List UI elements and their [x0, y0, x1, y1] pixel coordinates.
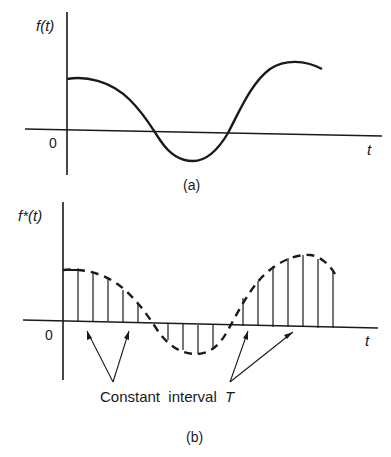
y-axis-label-a: f(t)	[36, 17, 54, 34]
interval-arrows	[87, 331, 293, 382]
x-axis-b	[23, 320, 378, 328]
annotation-text: Constant interval	[100, 388, 217, 405]
panel-b-sampled-signal	[23, 202, 378, 382]
origin-label-a: 0	[49, 135, 57, 151]
panel-a-continuous-signal	[25, 12, 382, 175]
y-axis-label-b: f*(t)	[18, 207, 42, 224]
continuous-curve	[67, 62, 322, 161]
x-axis-a	[25, 129, 382, 136]
origin-label-b: 0	[45, 327, 53, 343]
period-symbol: T	[225, 388, 234, 405]
envelope-dashed-curve	[63, 255, 335, 354]
x-axis-label-b: t	[365, 332, 369, 349]
constant-interval-annotation: Constant interval T	[100, 388, 234, 405]
x-axis-label-a: t	[367, 141, 371, 158]
sample-pulses	[63, 255, 333, 354]
caption-a: (a)	[183, 177, 200, 193]
caption-b: (b)	[186, 429, 203, 445]
arrowheads	[87, 331, 293, 340]
